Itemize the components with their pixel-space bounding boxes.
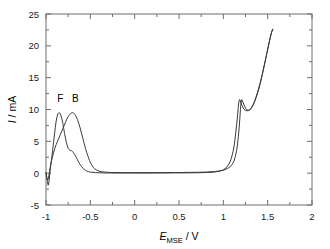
y-tick-label: 0 (34, 168, 39, 179)
x-tick-label: 0.5 (172, 211, 185, 222)
y-tick-label: 10 (28, 104, 39, 115)
y-tick-label: 15 (28, 72, 39, 83)
chart-figure: -1-0.500.511.52 -50510152025 FB EMSE / V… (0, 0, 330, 249)
x-tick-label: 0 (132, 211, 137, 222)
y-tick-label: -5 (31, 200, 39, 211)
y-tick-label: 20 (28, 40, 39, 51)
voltammogram-chart: -1-0.500.511.52 -50510152025 FB EMSE / V… (0, 0, 330, 249)
x-tick-label: 2 (309, 211, 314, 222)
y-tick-label: 5 (34, 136, 39, 147)
x-tick-label: 1 (221, 211, 226, 222)
curve-label-b: B (72, 93, 79, 104)
x-tick-label: 1.5 (261, 211, 274, 222)
y-tick-label: 25 (28, 9, 39, 20)
x-tick-label: -0.5 (82, 211, 98, 222)
curve-label-f: F (57, 93, 63, 104)
y-axis-title: I / mA (6, 96, 18, 123)
x-tick-label: -1 (42, 211, 50, 222)
x-tick-labels: -1-0.500.511.52 (42, 211, 315, 222)
